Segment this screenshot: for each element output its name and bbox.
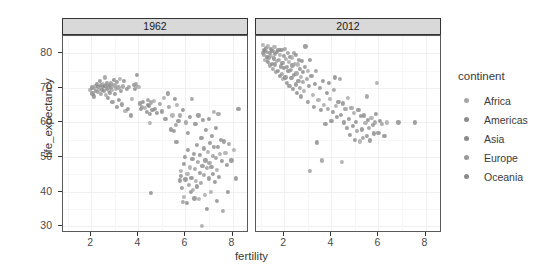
x-tick-label: 2 [280, 236, 286, 248]
y-tick-label: 80 [22, 46, 52, 58]
legend-key-icon [458, 149, 475, 166]
data-point [214, 168, 218, 172]
x-tick-label: 4 [134, 236, 140, 248]
data-point [306, 68, 310, 72]
data-point [170, 113, 174, 117]
data-point [213, 180, 217, 184]
data-point [316, 98, 320, 102]
legend-item-label: Africa [484, 95, 511, 107]
legend-key-icon [458, 92, 475, 109]
legend-items: AfricaAmericasAsiaEuropeOceania [458, 91, 528, 186]
gridline-vertical [331, 36, 332, 231]
data-point [216, 112, 220, 116]
x-tick-label: 8 [229, 236, 235, 248]
data-point [115, 105, 119, 109]
data-point [195, 184, 199, 188]
data-point [119, 89, 123, 93]
legend-item-label: Oceania [484, 171, 523, 183]
plot-area [255, 35, 441, 232]
gridline-vertical [233, 36, 234, 231]
data-point [130, 97, 134, 101]
data-point [314, 69, 318, 73]
y-tick-label: 60 [22, 115, 52, 127]
data-point [326, 106, 330, 110]
data-point [180, 186, 184, 190]
x-tick-label: 4 [327, 236, 333, 248]
gridline-vertical [91, 36, 92, 231]
data-point [291, 86, 295, 90]
data-point [297, 86, 301, 90]
legend-dot-icon [464, 136, 469, 141]
data-point [187, 183, 191, 187]
legend-dot-icon [464, 155, 469, 160]
data-point [178, 113, 182, 117]
data-point [193, 167, 197, 171]
data-point [222, 139, 226, 143]
data-point [172, 129, 176, 133]
legend-item[interactable]: Africa [458, 91, 528, 110]
data-point [283, 47, 287, 51]
data-point [190, 97, 194, 101]
data-point [294, 53, 298, 57]
data-point [193, 122, 197, 126]
legend-item[interactable]: Europe [458, 148, 528, 167]
data-point [103, 75, 107, 79]
data-point [340, 160, 344, 164]
data-point [380, 122, 384, 126]
data-point [186, 131, 190, 135]
data-point [358, 139, 362, 143]
legend-item[interactable]: Asia [458, 129, 528, 148]
data-point [360, 127, 364, 131]
data-point [313, 82, 317, 86]
data-point [348, 132, 352, 136]
legend-key-icon [458, 111, 475, 128]
data-point [396, 120, 400, 124]
data-point [353, 138, 357, 142]
x-tick-mark [232, 232, 233, 236]
data-point [319, 108, 323, 112]
data-point [147, 104, 151, 108]
y-tick-label: 50 [22, 150, 52, 162]
data-point [232, 148, 236, 152]
data-point [141, 100, 145, 104]
x-tick-label: 8 [422, 236, 428, 248]
data-point [413, 120, 417, 124]
y-tick-label: 40 [22, 185, 52, 197]
data-point [209, 165, 213, 169]
gridline-vertical-minor [261, 36, 262, 231]
data-point [308, 169, 312, 173]
data-point [192, 151, 196, 155]
data-point [320, 158, 324, 162]
data-point [148, 121, 152, 125]
gridline-vertical-minor [402, 36, 403, 231]
data-point [234, 176, 238, 180]
data-point [148, 112, 152, 116]
data-point [189, 176, 193, 180]
data-point [236, 106, 240, 110]
data-point [113, 92, 117, 96]
data-point [302, 89, 306, 93]
x-tick-label: 2 [87, 236, 93, 248]
data-point [372, 131, 376, 135]
data-point [148, 191, 152, 195]
data-point [323, 122, 327, 126]
x-tick-mark [377, 232, 378, 236]
data-point [306, 100, 310, 104]
data-point [342, 120, 346, 124]
data-point [217, 175, 221, 179]
legend-item[interactable]: Americas [458, 110, 528, 129]
legend-item[interactable]: Oceania [458, 167, 528, 186]
data-point [173, 97, 177, 101]
data-point [299, 94, 303, 98]
legend-item-label: Asia [484, 133, 504, 145]
data-point [310, 93, 314, 97]
data-point [177, 178, 181, 182]
data-point [215, 199, 219, 203]
gridline-vertical-minor [68, 36, 69, 231]
data-point [190, 157, 194, 161]
data-point [349, 106, 353, 110]
data-point [196, 113, 200, 117]
data-point [202, 173, 206, 177]
data-point [347, 117, 351, 121]
data-point [209, 189, 213, 193]
